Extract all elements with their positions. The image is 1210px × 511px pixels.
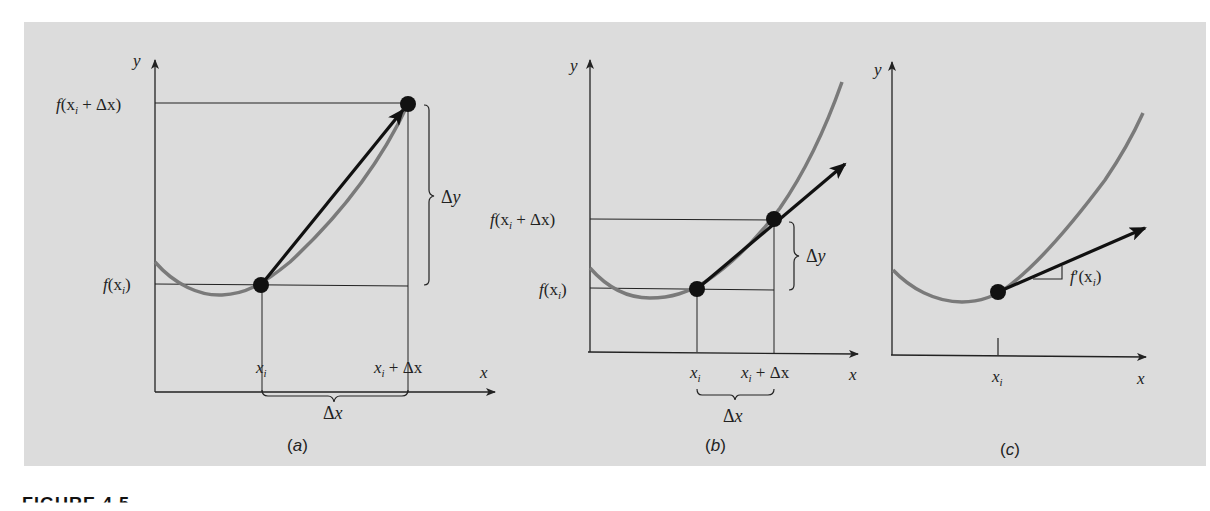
- y-axis-label: y: [872, 60, 882, 79]
- delta-y-label: Δy: [441, 187, 461, 207]
- point-xi-plus-dx: [766, 211, 782, 227]
- guide-fx-horizontal: [155, 284, 408, 286]
- point-xi: [990, 284, 1006, 300]
- secant-arrow: [261, 110, 403, 285]
- y-axis-label: y: [131, 51, 141, 70]
- x-axis-label: x: [848, 365, 857, 384]
- panel-caption-c: (c): [1000, 440, 1020, 459]
- point-xi: [689, 281, 705, 297]
- secant-arrow: [697, 164, 845, 289]
- x-axis: [891, 355, 1146, 357]
- label-f-xi: f(xi): [103, 275, 131, 296]
- panel-c: y x xi f′(xi) (c): [872, 60, 1146, 459]
- brace-delta-x: [697, 389, 774, 400]
- slope-label: f′(xi): [1070, 267, 1101, 288]
- tick-label-xi-plus-dx: xi + Δx: [373, 358, 423, 379]
- panel-caption-a: (a): [287, 436, 308, 455]
- derivative-figure: y x f(xi + Δx) f(xi) xi xi + Δx Δy Δx (a…: [0, 0, 1210, 511]
- tick-label-xi: xi: [255, 358, 267, 379]
- brace-delta-y: [424, 105, 434, 285]
- x-axis-label: x: [479, 363, 488, 382]
- tick-label-xi: xi: [689, 363, 701, 384]
- function-curve: [893, 113, 1143, 302]
- tick-label-xi-plus-dx: xi + Δx: [740, 363, 790, 384]
- panel-caption-b: (b): [705, 436, 726, 455]
- panel-a: y x f(xi + Δx) f(xi) xi xi + Δx Δy Δx (a…: [56, 51, 495, 455]
- guide-fxdx-horizontal: [590, 219, 774, 220]
- function-curve: [155, 104, 408, 295]
- label-f-xi: f(xi): [539, 280, 567, 301]
- label-f-xi-plus-dx: f(xi + Δx): [56, 95, 121, 116]
- brace-delta-y: [789, 222, 799, 290]
- x-axis-label: x: [1136, 369, 1145, 388]
- y-axis-label: y: [568, 56, 578, 75]
- tick-label-xi: xi: [991, 367, 1003, 388]
- slope-triangle: [1033, 266, 1062, 279]
- x-axis: [588, 352, 858, 354]
- panel-b: y x f(xi + Δx) f(xi) xi xi + Δx Δy Δx (b…: [490, 56, 858, 455]
- point-xi: [253, 277, 269, 293]
- label-f-xi-plus-dx: f(xi + Δx): [490, 210, 555, 231]
- delta-y-label: Δy: [806, 246, 826, 266]
- delta-x-label: Δx: [723, 406, 743, 426]
- function-curve: [590, 82, 842, 298]
- point-xi-plus-dx: [400, 96, 416, 112]
- delta-x-label: Δx: [323, 403, 343, 423]
